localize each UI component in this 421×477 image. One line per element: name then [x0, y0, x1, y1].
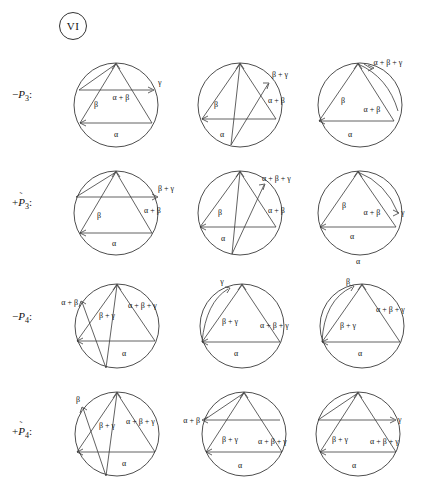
- circle-outline: [318, 171, 402, 255]
- diagram-label: α: [352, 461, 357, 470]
- diagram-label: β: [346, 277, 350, 286]
- diagram-label: α: [238, 461, 243, 470]
- circle-outline: [202, 392, 286, 476]
- row-label-symbol-wrap: ˜P: [18, 425, 25, 437]
- diagram-r3-c3: β β + γ α + β + γ α: [310, 276, 421, 381]
- chord-beta: [80, 64, 116, 123]
- diagram-label: α: [350, 232, 355, 241]
- circle-outline: [75, 392, 159, 476]
- row-label-plus-p3-tilde: +˜P3:: [12, 196, 32, 211]
- diagram-labels: β + γ α + β β α: [97, 184, 175, 248]
- diagram-r2-c2: α + β + γ α + β β α: [190, 163, 300, 263]
- diagram-label: α + β + γ: [262, 174, 291, 183]
- figure-marker-label: VI: [67, 20, 80, 32]
- diagram-label: β + γ: [272, 70, 289, 79]
- row-label-minus-p3: −P3:: [12, 88, 32, 103]
- arc-gamma: [202, 289, 228, 342]
- diagram-label: β: [341, 96, 345, 105]
- diagram-labels: γ α + β β α: [94, 78, 162, 139]
- diagram-label: α + β + γ: [376, 305, 405, 314]
- diagram-label: α: [358, 349, 363, 358]
- diagram-label: α + β: [364, 105, 381, 114]
- chord-long: [232, 172, 240, 254]
- diagram-labels: α + β β + γ α + β + γ α: [183, 416, 287, 470]
- chord-abg: [117, 285, 155, 341]
- diagram-label: β: [342, 201, 346, 210]
- diagram-label: α + β: [183, 416, 200, 425]
- diagram-r2-c1: β + γ α + β β α: [66, 163, 176, 263]
- diagram-label: β: [94, 100, 98, 109]
- circle-outline: [198, 63, 282, 147]
- diagram-labels: β β + γ α + β + γ α: [340, 277, 405, 358]
- row-label-symbol: P: [18, 310, 25, 322]
- diagram-label: α: [356, 257, 361, 266]
- row-label-colon: :: [29, 88, 32, 100]
- diagram-label: α: [122, 349, 127, 358]
- diagram-label: β + γ: [158, 184, 175, 193]
- diagram-labels: α + β β + γ α + β + γ α: [61, 298, 157, 358]
- diagram-labels: α + β + γ α + β β α: [218, 174, 291, 243]
- diagram-label: γ: [157, 78, 162, 87]
- chord-abg: [232, 185, 264, 254]
- diagram-label: α + β + γ: [128, 301, 157, 310]
- row-label-overbar: ˜: [18, 422, 24, 426]
- diagram-r4-c2: α + β β + γ α + β + γ α: [186, 386, 304, 477]
- diagram-label: γ: [400, 208, 405, 217]
- row-label-minus-p4: −P4:: [12, 310, 32, 325]
- row-label-overbar: ˜: [18, 193, 24, 197]
- diagram-label: α + β + γ: [126, 417, 155, 426]
- diagram-r1-c1: γ α + β β α: [66, 55, 176, 155]
- diagram-label: α: [114, 130, 119, 139]
- diagram-label: α + β + γ: [374, 58, 403, 67]
- chord-beta: [319, 64, 358, 121]
- figure-marker-vi: VI: [59, 12, 87, 40]
- diagram-label: α + β: [61, 298, 78, 307]
- chord-alpha-beta: [240, 64, 276, 119]
- row-label-symbol: P: [18, 88, 25, 100]
- diagram-label: β: [76, 395, 80, 404]
- diagram-r3-c1: α + β β + γ α + β + γ α: [62, 276, 177, 381]
- circle-outline: [318, 63, 402, 147]
- diagram-label: α + β: [364, 208, 381, 217]
- diagram-r2-c3: γ α + β β α α: [310, 163, 420, 268]
- chord-alpha-beta: [358, 172, 396, 227]
- chord-beta: [200, 172, 240, 227]
- chord-abg: [242, 285, 280, 342]
- diagram-r1-c3: α + β + γ α + β β α: [310, 55, 420, 155]
- row-label-colon: :: [29, 425, 32, 437]
- arc-alpha-beta-gamma: [358, 64, 398, 111]
- arc-gamma: [358, 172, 398, 213]
- diagram-r4-c1: β β + γ α + β + γ α: [62, 386, 177, 477]
- chord-beta: [320, 172, 358, 227]
- diagram-r4-c3: γ β + γ α + β + γ α: [306, 386, 421, 477]
- diagram-label: β + γ: [222, 435, 239, 444]
- chord-beta: [83, 408, 106, 476]
- diagram-label: α + β: [113, 93, 130, 102]
- diagram-label: α + β + γ: [258, 437, 287, 446]
- diagram-labels: γ β + γ α + β + γ α: [332, 415, 402, 470]
- diagram-label: β + γ: [340, 321, 357, 330]
- diagram-label: β: [218, 208, 222, 217]
- chord-alpha-beta: [116, 172, 152, 233]
- diagram-label: γ: [219, 277, 224, 286]
- diagram-label: α + β + γ: [370, 437, 399, 446]
- circle-outline: [316, 392, 400, 476]
- diagram-label: α: [348, 130, 353, 139]
- diagram-label: α: [234, 349, 239, 358]
- diagram-label: α: [112, 239, 117, 248]
- diagram-label: α + β: [268, 96, 285, 105]
- chord-long: [106, 393, 117, 476]
- diagram-label: γ: [397, 415, 402, 424]
- diagram-labels: β + γ α + β β α: [214, 70, 289, 139]
- row-label-symbol-wrap: P: [18, 88, 25, 100]
- diagram-label: α: [220, 130, 225, 139]
- diagram-r3-c2: γ β + γ α + β + γ α: [190, 276, 305, 381]
- row-label-colon: :: [29, 310, 32, 322]
- diagram-label: α: [221, 234, 226, 243]
- arc-beta: [322, 287, 352, 342]
- diagram-label: α + β + γ: [260, 321, 289, 330]
- diagram-label: α: [122, 459, 127, 468]
- diagram-label: β + γ: [99, 311, 116, 320]
- diagram-label: β + γ: [99, 421, 116, 430]
- diagram-label: β: [214, 100, 218, 109]
